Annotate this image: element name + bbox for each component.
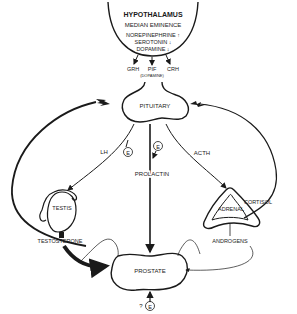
pituitary-label: PITUITARY [140,103,171,109]
testosterone-to-prostate-arrow [64,246,106,266]
serotonin-label: SEROTONIN ↓ [135,39,172,45]
adrenal-thin-curve [178,240,200,256]
pif-label: PIF [148,66,157,72]
median-eminence-label: MEDIAN EMINENCE [125,22,182,28]
right-feedback-inhibition-icon [190,101,208,107]
pif-dopamine-note: (DOPAMINE) [140,73,164,78]
norepinephrine-label: NOREPINEPHRINE ↑ [126,32,180,38]
testosterone-label: TESTOSTERONE [38,238,83,244]
pituitary-outline [122,82,188,122]
lh-arrow [68,124,134,190]
estrogen-prolactin-symbol: E [156,144,160,150]
estrogen-lh-inhibit [126,140,128,147]
cortisol-label: CORTISOL [244,199,272,205]
testosterone-feedback-line [12,102,96,246]
testis-thin-curve [80,239,118,262]
acth-label: ACTH [194,150,210,156]
grh-label: GRH [127,66,139,72]
testis-outline [47,192,76,232]
endocrine-diagram: HYPOTHALAMUS MEDIAN EMINENCE NOREPINEPHR… [0,0,297,314]
prostate-question-mark: ? [139,303,143,309]
crh-arrow [166,55,170,64]
left-feedback-inhibition-icon [96,99,110,106]
prolactin-label-text: PROLACTIN [135,171,169,177]
estrogen-lh-symbol: E [126,150,130,156]
acth-arrow [166,124,226,188]
dopamine-label: DOPAMINE ↓ [136,46,169,52]
testis-label: TESTIS [52,205,72,211]
estrogen-prolactin-arrow [153,151,156,158]
crh-label: CRH [167,66,179,72]
hypothalamus-title: HYPOTHALAMUS [123,11,182,18]
androgens-to-prostate-arrow [186,246,253,270]
grh-arrow [134,55,138,64]
estrogen-prostate-symbol: E [148,304,152,310]
lh-label: LH [100,149,108,155]
adrenal-label: ADRENAL [218,206,244,212]
prostate-label: PROSTATE [134,268,165,274]
androgens-label: ANDROGENS [212,238,248,244]
